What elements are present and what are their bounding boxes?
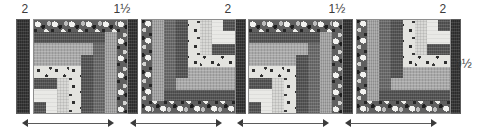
arrow-right-head-icon (431, 119, 437, 127)
log-strip-dot-10 (188, 19, 200, 67)
log-strip-charcoal-3 (164, 90, 235, 101)
log-strip-midgray-7 (188, 67, 235, 78)
log-cabin-block-1 (33, 19, 128, 114)
log-strip-dot-10 (69, 66, 81, 114)
log-strip-charcoal-3 (379, 90, 450, 101)
log-strip-dot-9 (34, 66, 69, 78)
top-measurement-label-2: 1½ (107, 3, 137, 16)
log-strip-midgray-5 (391, 78, 450, 90)
log-strip-dot-9 (249, 66, 284, 78)
arrow-rule-line (135, 123, 217, 124)
measure-arrow-block-3 (237, 122, 329, 124)
sashing-strip-1 (16, 19, 30, 114)
log-strip-dot-9 (200, 55, 235, 67)
block-inner (249, 20, 342, 113)
log-strip-darkgray-6 (164, 19, 176, 90)
log-strip-midgray-5 (34, 43, 93, 55)
measure-arrow-block-2 (130, 122, 222, 124)
log-strip-gray-4 (105, 32, 117, 114)
arrow-right-head-icon (108, 119, 114, 127)
top-measurement-label-3: 2 (215, 3, 241, 16)
top-measurement-label-1: 2 (12, 3, 38, 16)
log-cabin-block-3 (248, 19, 343, 114)
log-strip-floral-2 (332, 20, 343, 114)
log-strip-midgray-7 (403, 67, 450, 78)
top-measurement-label-5: 2 (430, 3, 456, 16)
log-strip-charcoal-14 (249, 102, 261, 114)
measurement-arrow-row (0, 118, 477, 130)
log-strip-floral-2 (141, 19, 152, 113)
log-strip-gray-4 (152, 19, 164, 101)
log-strip-floral-2 (356, 19, 367, 113)
log-strip-dot-10 (403, 19, 415, 67)
log-strip-floral-1 (141, 101, 235, 113)
log-strip-charcoal-3 (34, 32, 105, 43)
log-strip-floral-1 (249, 20, 343, 32)
log-strip-cream-12 (415, 19, 427, 55)
arrow-rule-line (242, 123, 324, 124)
log-strip-cream-12 (200, 19, 212, 55)
log-strip-floral-1 (34, 20, 128, 32)
log-strip-charcoal-14 (223, 19, 235, 31)
log-strip-charcoal-11 (427, 44, 450, 55)
block-inner (142, 20, 235, 113)
log-strip-midgray-5 (176, 78, 235, 90)
side-measurement-label: 9½ (455, 58, 472, 71)
arrow-rule-line (350, 123, 432, 124)
arrow-right-head-icon (216, 119, 222, 127)
log-strip-cream-12 (57, 78, 69, 114)
log-strip-midgray-7 (249, 55, 296, 66)
log-strip-charcoal-11 (34, 78, 57, 89)
block-inner (34, 20, 127, 113)
measure-arrow-block-4 (345, 122, 437, 124)
log-strip-charcoal-8 (176, 19, 188, 78)
log-cabin-block-2 (141, 19, 236, 114)
quilt-diagram-canvas: 21½21½2 9½ (0, 0, 477, 135)
log-strip-charcoal-14 (34, 102, 46, 114)
log-strip-charcoal-3 (249, 32, 320, 43)
log-strip-charcoal-8 (81, 55, 93, 114)
log-strip-dot-10 (284, 66, 296, 114)
log-strip-cream-12 (272, 78, 284, 114)
log-strip-charcoal-8 (296, 55, 308, 114)
block-inner (357, 20, 450, 113)
log-strip-charcoal-11 (249, 78, 272, 89)
log-strip-charcoal-11 (212, 44, 235, 55)
log-strip-charcoal-8 (391, 19, 403, 78)
log-strip-darkgray-6 (379, 19, 391, 90)
log-strip-darkgray-6 (93, 43, 105, 114)
log-strip-dot-9 (415, 55, 450, 67)
arrow-right-head-icon (323, 119, 329, 127)
log-strip-midgray-7 (34, 55, 81, 66)
log-strip-gray-4 (320, 32, 332, 114)
measure-arrow-block-1 (22, 122, 114, 124)
log-strip-midgray-5 (249, 43, 308, 55)
log-strip-floral-2 (117, 20, 128, 114)
log-strip-darkgray-6 (308, 43, 320, 114)
arrow-rule-line (27, 123, 109, 124)
log-cabin-block-4 (356, 19, 451, 114)
log-strip-charcoal-14 (438, 19, 450, 31)
log-strip-floral-1 (356, 101, 450, 113)
top-measurement-label-4: 1½ (322, 3, 352, 16)
log-strip-gray-4 (367, 19, 379, 101)
